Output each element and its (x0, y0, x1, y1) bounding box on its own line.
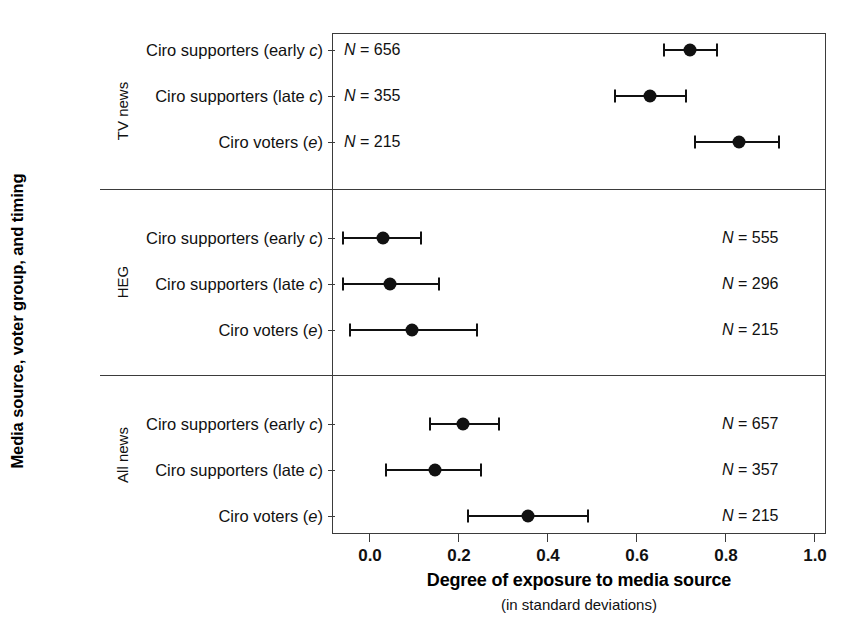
panel-separator-2 (100, 375, 826, 376)
row-label: Ciro supporters (early c) (0, 42, 332, 59)
error-bar-cap-high (438, 278, 440, 291)
n-annotation: N = 357 (722, 461, 779, 479)
row-label: Ciro supporters (early c) (0, 230, 332, 247)
n-annotation: N = 555 (722, 229, 779, 247)
panel-label-tv-news: TV news (109, 36, 135, 186)
n-symbol: N (722, 229, 734, 246)
data-point (644, 90, 657, 103)
error-bar-cap-low (467, 510, 469, 523)
x-tick-0.6 (636, 534, 637, 542)
data-point (377, 232, 390, 245)
error-bar-cap-low (429, 418, 431, 431)
x-tick-0.8 (725, 534, 726, 542)
data-point (521, 510, 534, 523)
error-bar-cap-high (685, 90, 687, 103)
n-symbol: N (722, 415, 734, 432)
row-label: Ciro supporters (early c) (0, 416, 332, 433)
n-annotation: N = 355 (344, 87, 401, 105)
row-label-italic: c (309, 415, 317, 433)
data-point (733, 136, 746, 149)
x-tick-label-0.4: 0.4 (536, 546, 560, 566)
error-bar-cap-low (694, 136, 696, 149)
error-bar-cap-low (663, 44, 665, 57)
error-bar-cap-high (587, 510, 589, 523)
row-label-italic: e (308, 507, 317, 525)
n-symbol: N (344, 133, 356, 150)
n-annotation: N = 657 (722, 415, 779, 433)
x-tick-label-0.0: 0.0 (358, 546, 382, 566)
n-symbol: N (722, 507, 734, 524)
x-tick-1.0 (814, 534, 815, 542)
data-point (428, 464, 441, 477)
n-annotation: N = 296 (722, 275, 779, 293)
data-point (406, 324, 419, 337)
row-label-italic: e (308, 321, 317, 339)
n-symbol: N (722, 461, 734, 478)
row-label-italic: c (309, 461, 317, 479)
row-label-italic: c (309, 41, 317, 59)
x-tick-label-1.0: 1.0 (803, 546, 827, 566)
row-label: Ciro supporters (late c) (0, 88, 332, 105)
n-annotation: N = 215 (344, 133, 401, 151)
error-bar-cap-high (778, 136, 780, 149)
error-bar-cap-high (716, 44, 718, 57)
error-bar-cap-low (385, 464, 387, 477)
x-tick-label-0.8: 0.8 (714, 546, 738, 566)
n-annotation: N = 215 (722, 321, 779, 339)
data-point (457, 418, 470, 431)
forest-plot-figure: Media source, voter group, and timing 0.… (0, 0, 860, 642)
data-point (684, 44, 697, 57)
row-label: Ciro supporters (late c) (0, 276, 332, 293)
x-axis-subtitle: (in standard deviations) (332, 596, 826, 613)
error-bar-cap-low (614, 90, 616, 103)
error-bar-cap-high (476, 324, 478, 337)
row-label-italic: c (309, 87, 317, 105)
row-label: Ciro voters (e) (0, 134, 332, 151)
row-label: Ciro supporters (late c) (0, 462, 332, 479)
x-tick-label-0.2: 0.2 (447, 546, 471, 566)
row-label-italic: c (309, 229, 317, 247)
row-label: Ciro voters (e) (0, 508, 332, 525)
n-symbol: N (344, 87, 356, 104)
x-axis-title: Degree of exposure to media source (332, 570, 826, 591)
error-bar-cap-high (480, 464, 482, 477)
error-bar-cap-low (342, 232, 344, 245)
row-label-italic: e (308, 133, 317, 151)
n-annotation: N = 215 (722, 507, 779, 525)
error-bar-cap-high (420, 232, 422, 245)
error-bar-cap-low (349, 324, 351, 337)
row-label: Ciro voters (e) (0, 322, 332, 339)
n-annotation: N = 656 (344, 41, 401, 59)
error-bar-cap-low (342, 278, 344, 291)
x-tick-0.2 (458, 534, 459, 542)
x-tick-0.0 (369, 534, 370, 542)
error-bar-cap-high (498, 418, 500, 431)
n-symbol: N (722, 321, 734, 338)
panel-separator-1 (100, 189, 826, 190)
n-symbol: N (344, 41, 356, 58)
n-symbol: N (722, 275, 734, 292)
x-tick-label-0.6: 0.6 (625, 546, 649, 566)
x-tick-0.4 (547, 534, 548, 542)
row-label-italic: c (309, 275, 317, 293)
data-point (384, 278, 397, 291)
